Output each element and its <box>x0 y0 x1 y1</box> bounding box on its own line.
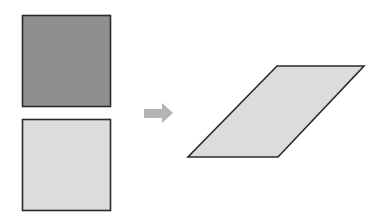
top-square-dark <box>23 16 111 107</box>
parallelogram-shape <box>188 66 364 157</box>
bottom-square-light <box>23 120 111 211</box>
right-arrow-icon <box>144 103 173 123</box>
diagram-canvas <box>0 0 382 223</box>
